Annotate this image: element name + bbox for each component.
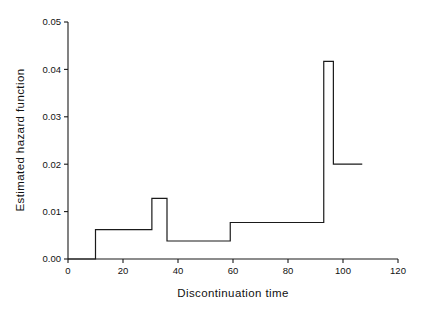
y-tick-label: 0.05 bbox=[43, 16, 62, 27]
y-tick-label: 0.01 bbox=[43, 206, 62, 217]
x-axis-title: Discontinuation time bbox=[177, 287, 289, 299]
chart-background bbox=[0, 0, 424, 312]
x-tick-label: 60 bbox=[228, 265, 239, 276]
y-tick-label: 0.02 bbox=[43, 159, 62, 170]
hazard-function-chart: 0.000.010.020.030.040.05 020406080100120… bbox=[0, 0, 424, 312]
x-tick-label: 20 bbox=[118, 265, 129, 276]
x-tick-label: 0 bbox=[65, 265, 70, 276]
x-tick-label: 40 bbox=[173, 265, 184, 276]
y-axis-title: Estimated hazard function bbox=[14, 69, 26, 212]
y-tick-label: 0.04 bbox=[43, 64, 62, 75]
x-tick-label: 100 bbox=[335, 265, 351, 276]
y-tick-label: 0.03 bbox=[43, 111, 62, 122]
y-tick-label: 0.00 bbox=[43, 253, 62, 264]
x-tick-label: 120 bbox=[390, 265, 406, 276]
x-tick-label: 80 bbox=[283, 265, 294, 276]
